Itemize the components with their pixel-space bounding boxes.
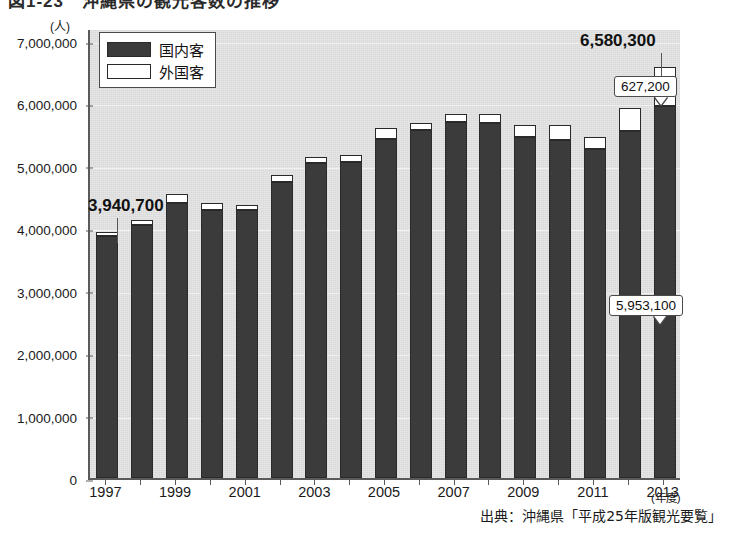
bar-2002 [271, 175, 293, 478]
bar-segment-domestic [131, 225, 153, 478]
bar-2005 [375, 128, 397, 478]
y-axis-tick-label: 4,000,000 [0, 223, 86, 238]
annotation-2013-foreign: 627,200 [614, 76, 677, 97]
x-axis-tick-mark [419, 480, 420, 485]
x-axis-tick-mark [105, 480, 106, 485]
legend-label-domestic: 国内客 [159, 39, 204, 60]
figure-title: 図1-23 沖縄県の観光客数の推移 [8, 0, 280, 12]
x-axis-tick-mark [349, 480, 350, 485]
x-axis-tick-mark [593, 480, 594, 485]
bar-2013 [654, 67, 676, 478]
bar-segment-foreign [201, 203, 223, 209]
y-axis-tick-mark [86, 43, 93, 44]
legend-label-foreign: 外国客 [159, 61, 204, 82]
bar-2003 [305, 157, 327, 478]
annotation-2013-domestic: 5,953,100 [609, 295, 683, 316]
y-axis-tick-mark [86, 355, 93, 356]
y-axis-tick-mark [86, 418, 93, 419]
bar-2011 [584, 137, 606, 478]
legend-swatch-domestic [107, 42, 151, 57]
bar-1999 [166, 194, 188, 478]
bar-segment-domestic [236, 210, 258, 478]
bar-2000 [201, 203, 223, 478]
bar-segment-foreign [549, 125, 571, 139]
x-axis-unit-label: (年度) [651, 489, 681, 505]
x-axis-tick-mark [175, 480, 176, 485]
bar-2007 [445, 114, 467, 478]
bar-segment-foreign [514, 125, 536, 137]
x-axis-tick-label: 1999 [159, 484, 191, 500]
annotation-1997-leader-line [117, 218, 118, 243]
x-axis-tick-label: 2003 [298, 484, 330, 500]
legend-item-domestic: 国内客 [107, 38, 208, 60]
bar-segment-foreign [375, 128, 397, 139]
bar-2012 [619, 108, 641, 478]
bar-2001 [236, 205, 258, 478]
x-axis-tick-label: 2005 [368, 484, 400, 500]
x-axis-tick-mark [488, 480, 489, 485]
x-axis-tick-label: 1997 [89, 484, 121, 500]
bar-2004 [340, 155, 362, 478]
bar-segment-domestic [201, 210, 223, 478]
bar-1997 [96, 232, 118, 478]
x-axis-tick-mark [210, 480, 211, 485]
bar-segment-foreign [479, 114, 501, 123]
x-axis-tick-mark [384, 480, 385, 485]
bar-segment-domestic [305, 163, 327, 478]
bar-segment-foreign [410, 123, 432, 130]
y-axis-tick-mark [86, 230, 93, 231]
bar-segment-domestic [271, 182, 293, 478]
y-axis-tick-label: 2,000,000 [0, 348, 86, 363]
bar-segment-domestic [96, 236, 118, 478]
bar-segment-foreign [584, 137, 606, 149]
x-axis-tick-mark [558, 480, 559, 485]
source-note: 出典：沖縄県「平成25年版観光要覧」 [480, 505, 722, 525]
x-axis-tick-mark [663, 480, 664, 485]
y-axis-tick-mark [86, 293, 93, 294]
y-axis-tick-mark [86, 480, 93, 481]
bar-2006 [410, 123, 432, 478]
y-axis-tick-label: 6,000,000 [0, 98, 86, 113]
y-axis-tick-mark [86, 168, 93, 169]
bar-segment-foreign [305, 157, 327, 163]
annotation-1997-total: 3,940,700 [88, 196, 164, 216]
bar-2010 [549, 125, 571, 478]
y-axis-tick-label: 0 [0, 473, 86, 488]
y-axis-tick-label: 5,000,000 [0, 160, 86, 175]
bar-segment-foreign [96, 232, 118, 236]
x-axis-tick-mark [314, 480, 315, 485]
x-axis-tick-mark [245, 480, 246, 485]
bar-1998 [131, 220, 153, 478]
y-axis-tick-label: 1,000,000 [0, 410, 86, 425]
chart-legend: 国内客 外国客 [99, 32, 216, 88]
bar-segment-domestic [166, 203, 188, 478]
bar-segment-foreign [131, 220, 153, 226]
bar-2008 [479, 114, 501, 478]
legend-swatch-foreign [107, 64, 151, 79]
y-axis-tick-label: 3,000,000 [0, 285, 86, 300]
y-axis-unit-label: (人) [50, 17, 70, 34]
x-axis-tick-label: 2009 [507, 484, 539, 500]
bar-segment-foreign [619, 108, 641, 130]
x-axis-tick-mark [454, 480, 455, 485]
bar-segment-domestic [514, 137, 536, 478]
annotation-2013-foreign-tail [655, 97, 667, 105]
x-axis-tick-mark [628, 480, 629, 485]
bar-segment-domestic [479, 123, 501, 478]
x-axis-tick-label: 2011 [577, 484, 608, 500]
bar-segment-domestic [375, 139, 397, 478]
y-axis-tick-label: 7,000,000 [0, 36, 86, 51]
bar-2009 [514, 125, 536, 478]
x-axis-tick-mark [523, 480, 524, 485]
y-axis-tick-mark [86, 105, 93, 106]
bar-segment-foreign [271, 175, 293, 182]
x-axis-tick-mark [280, 480, 281, 485]
bar-segment-foreign [340, 155, 362, 162]
bar-segment-foreign [166, 194, 188, 203]
chart-plot-area [88, 30, 680, 480]
x-axis-tick-label: 2007 [438, 484, 470, 500]
bar-segment-domestic [549, 140, 571, 478]
annotation-2013-domestic-tail [654, 316, 666, 324]
annotation-2013-total: 6,580,300 [580, 31, 656, 51]
bar-segment-domestic [584, 149, 606, 478]
